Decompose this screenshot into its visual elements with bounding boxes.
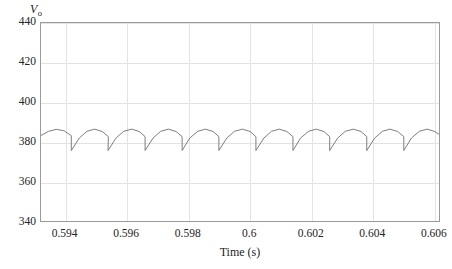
y-tick-label: 380 <box>2 136 36 148</box>
x-axis-title: Time (s) <box>40 246 440 258</box>
x-tick-label: 0.602 <box>298 228 324 240</box>
x-tick-label: 0.606 <box>421 228 447 240</box>
x-tick-label: 0.6 <box>242 228 256 240</box>
waveform-path <box>41 129 439 150</box>
x-tick-label: 0.594 <box>52 228 78 240</box>
y-tick-label: 440 <box>2 16 36 28</box>
y-axis-title-symbol: V <box>30 2 37 16</box>
y-tick-label: 400 <box>2 96 36 108</box>
y-axis-tick-labels: 340360380400420440 <box>0 22 36 222</box>
waveform-trace <box>41 23 439 221</box>
y-axis-title-subscript: o <box>38 8 42 18</box>
y-tick-label: 360 <box>2 176 36 188</box>
y-tick-label: 420 <box>2 56 36 68</box>
chart-figure: Vo 340360380400420440 0.5940.5960.5980.6… <box>0 0 452 269</box>
plot-area <box>40 22 440 222</box>
x-tick-label: 0.598 <box>175 228 201 240</box>
x-tick-label: 0.596 <box>113 228 139 240</box>
x-tick-label: 0.604 <box>359 228 385 240</box>
x-axis-tick-labels: 0.5940.5960.5980.60.6020.6040.606 <box>40 228 440 244</box>
y-tick-label: 340 <box>2 216 36 228</box>
